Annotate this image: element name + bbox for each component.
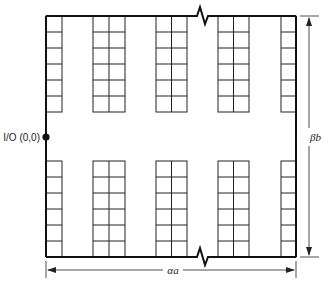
io-point-marker [42,133,49,140]
rack-top-1 [46,16,62,112]
storage-racks [46,16,296,257]
arrow-up-icon [306,17,312,26]
arrow-left-icon [47,267,56,273]
width-label: αa [167,264,179,276]
rack-top-5 [281,16,296,112]
height-label: βb [309,131,321,143]
rack-bottom-2 [93,161,125,257]
rack-top-4 [218,16,249,112]
rack-bottom-1 [46,161,62,257]
rack-bottom-4 [218,161,249,257]
warehouse-layout-diagram: I/O (0,0) βb αa [0,0,328,286]
arrow-down-icon [306,247,312,256]
rack-bottom-5 [281,161,296,257]
rack-bottom-3 [156,161,187,257]
arrow-right-icon [286,267,295,273]
rack-top-2 [93,16,125,112]
rack-top-3 [156,16,187,112]
io-label: I/O (0,0) [3,132,40,143]
